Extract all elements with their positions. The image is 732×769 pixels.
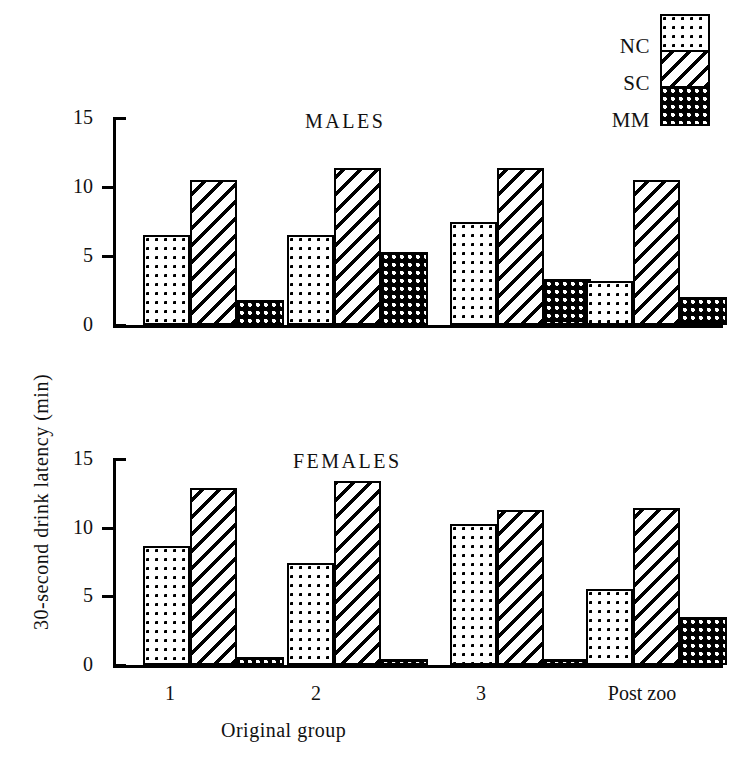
y-axis-tick-label: 15 xyxy=(49,448,93,468)
bar-nc-group-3 xyxy=(450,524,497,665)
bar-nc-group-2 xyxy=(287,563,334,665)
y-axis-line xyxy=(113,459,116,665)
y-axis-tick xyxy=(102,595,113,598)
bar-chart-figure: NC SC MM 30-second drink latency (min) M… xyxy=(0,0,732,769)
bar-mm-group-4 xyxy=(680,617,727,665)
y-axis-tick-label: 5 xyxy=(49,585,93,605)
panel-females: FEMALES 151050 xyxy=(0,0,732,340)
bar-mm-group-3 xyxy=(544,659,591,665)
bar-sc-group-3 xyxy=(497,510,544,665)
bar-sc-group-2 xyxy=(334,481,381,665)
bar-nc-group-4 xyxy=(586,589,633,665)
y-axis-tick xyxy=(113,458,126,461)
y-axis-tick xyxy=(113,664,126,667)
bar-sc-group-1 xyxy=(190,488,237,665)
y-axis-tick xyxy=(102,527,113,530)
x-axis-baseline xyxy=(113,665,723,668)
xtick-label-3: 3 xyxy=(461,682,501,705)
plot-area-females: 151050 xyxy=(113,459,723,665)
xtick-label-2: 2 xyxy=(296,682,336,705)
xtick-label-1: 1 xyxy=(150,682,190,705)
bar-mm-group-2 xyxy=(381,659,428,665)
y-axis-tick-label: 0 xyxy=(49,654,93,674)
bar-sc-group-4 xyxy=(633,508,680,665)
y-axis-tick-label: 10 xyxy=(49,517,93,537)
bar-mm-group-1 xyxy=(237,657,284,665)
bar-nc-group-1 xyxy=(143,546,190,665)
x-axis-title: Original group xyxy=(221,719,346,742)
xtick-label-post-zoo: Post zoo xyxy=(577,682,707,705)
